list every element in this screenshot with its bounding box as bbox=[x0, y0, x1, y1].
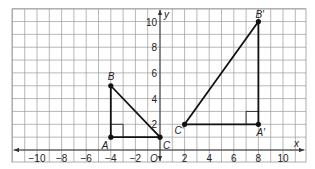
vertex-label: B′ bbox=[255, 9, 265, 20]
x-axis-label: x bbox=[293, 138, 300, 149]
vertex-point bbox=[108, 135, 113, 140]
y-tick-label: 10 bbox=[146, 17, 158, 28]
x-tick-label: −10 bbox=[29, 153, 46, 164]
y-tick-label: 6 bbox=[151, 68, 157, 79]
right-angle-marker bbox=[246, 111, 258, 124]
vertex-point bbox=[256, 19, 261, 24]
vertex-label: C′ bbox=[175, 125, 185, 136]
x-tick-label: 4 bbox=[206, 153, 212, 164]
x-axis-arrow-right-icon bbox=[299, 148, 304, 152]
vertex-label: A bbox=[101, 140, 109, 151]
y-tick-label: 4 bbox=[151, 94, 157, 105]
origin-label: O bbox=[150, 153, 158, 164]
triangle-a'b'c': A′B′C′ bbox=[175, 9, 266, 139]
vertex-point bbox=[256, 122, 261, 127]
y-axis-label: y bbox=[163, 9, 170, 20]
vertex-point bbox=[108, 83, 113, 88]
vertex-label: A′ bbox=[255, 127, 266, 138]
x-tick-label: −6 bbox=[80, 153, 92, 164]
y-tick-label: 8 bbox=[151, 42, 157, 53]
x-tick-label: 10 bbox=[277, 153, 289, 164]
coordinate-plane: yxO−10−8−6−4−2246810246810 ABCA′B′C′ bbox=[0, 0, 315, 169]
vertex-label: B bbox=[108, 71, 115, 82]
x-axis-arrow-left-icon bbox=[14, 148, 19, 152]
right-angle-marker bbox=[111, 124, 123, 137]
x-tick-label: 6 bbox=[231, 153, 237, 164]
vertex-label: C bbox=[163, 140, 171, 151]
x-tick-label: 2 bbox=[182, 153, 188, 164]
y-axis-arrow-up-icon bbox=[158, 10, 162, 15]
x-tick-label: 8 bbox=[256, 153, 262, 164]
y-axis-arrow-down-icon bbox=[158, 156, 162, 161]
triangles: ABCA′B′C′ bbox=[101, 9, 266, 152]
x-tick-label: −8 bbox=[56, 153, 68, 164]
x-tick-label: −4 bbox=[105, 153, 117, 164]
x-tick-label: −2 bbox=[130, 153, 142, 164]
vertex-point bbox=[157, 135, 162, 140]
